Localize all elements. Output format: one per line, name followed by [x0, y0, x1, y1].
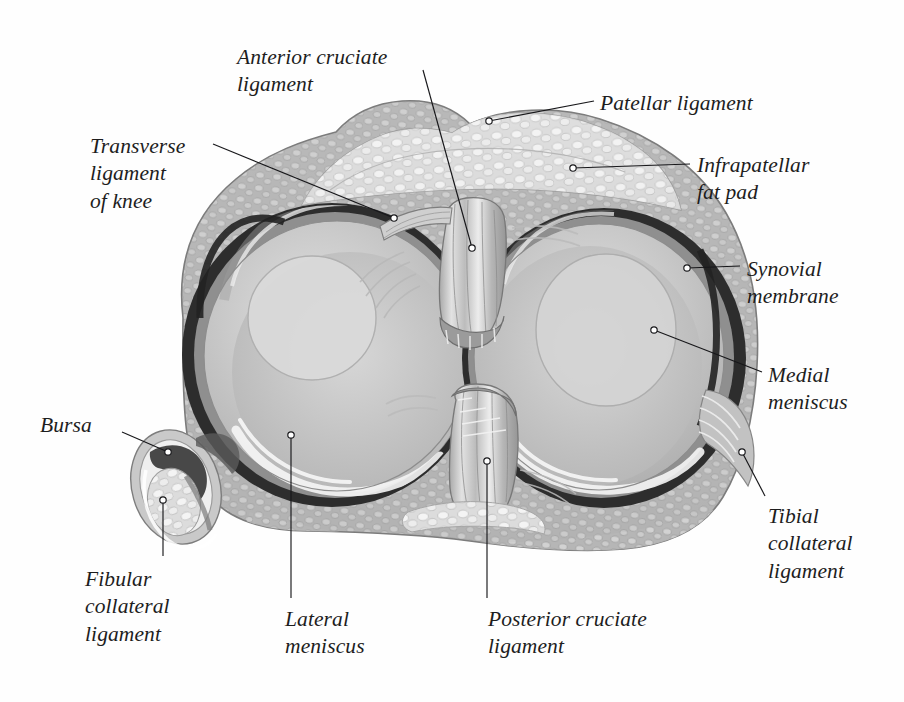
label-tibial-collateral-ligament: Tibial collateral ligament: [768, 503, 853, 585]
illustration-stage: Diagram of the knee joint menisci and li…: [0, 0, 904, 702]
label-fibular-collateral-ligament: Fibular collateral ligament: [85, 566, 170, 648]
label-lateral-meniscus: Lateral meniscus: [285, 606, 365, 661]
label-infrapatellar-fat-pad: Infrapatellar fat pad: [697, 152, 809, 207]
anchor-point-bursa: [165, 449, 171, 455]
anchor-point-transverse-ligament-of-knee: [391, 215, 397, 221]
label-synovial-membrane: Synovial membrane: [747, 256, 839, 311]
anchor-point-lateral-meniscus: [288, 432, 294, 438]
anchor-point-tibial-collateral-ligament: [739, 449, 745, 455]
anchor-point-anterior-cruciate-ligament: [469, 245, 475, 251]
label-medial-meniscus: Medial meniscus: [768, 362, 848, 417]
label-patellar-ligament: Patellar ligament: [600, 90, 753, 117]
anchor-point-fibular-collateral-ligament: [160, 497, 166, 503]
anchor-point-posterior-cruciate-ligament: [484, 458, 490, 464]
anchor-point-medial-meniscus: [651, 327, 657, 333]
anchor-point-patellar-ligament: [486, 118, 492, 124]
label-anterior-cruciate-ligament: Anterior cruciate ligament: [237, 44, 387, 99]
label-transverse-ligament-of-knee: Transverse ligament of knee: [90, 133, 185, 215]
label-posterior-cruciate-ligament: Posterior cruciate ligament: [488, 606, 647, 661]
anchor-point-synovial-membrane: [684, 265, 690, 271]
label-bursa: Bursa: [40, 412, 92, 439]
anchor-point-infrapatellar-fat-pad: [570, 165, 576, 171]
